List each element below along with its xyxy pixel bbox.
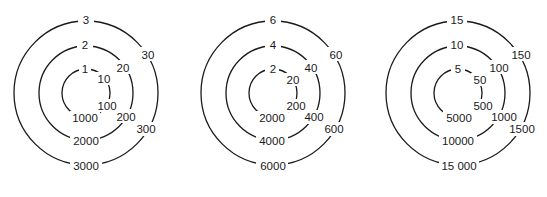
dial-1-outer-lower-right-label: 300 <box>136 123 155 135</box>
dial-2-outer-top-label: 6 <box>270 14 276 26</box>
dial-1-inner-top-label: 1 <box>82 63 88 75</box>
dial-1-middle-bottom-label: 2000 <box>73 135 99 147</box>
dial-2-middle-upper-right-label: 40 <box>305 62 318 74</box>
dial-1-outer-upper-right-label: 30 <box>142 49 155 61</box>
dial-3-middle-lower-right-label: 1000 <box>491 111 517 123</box>
dial-3-inner-top-label: 5 <box>455 63 461 75</box>
dial-2-outer-upper-right-label: 60 <box>330 49 343 61</box>
dial-2-outer-bottom-label: 6000 <box>260 160 286 172</box>
dial-1-outer-top-label: 3 <box>83 14 89 26</box>
dial-1-inner-bottom-label: 1000 <box>72 112 98 124</box>
dial-3-inner-upper-right-label: 50 <box>474 74 487 86</box>
dial-3: 15 10 5 150 100 50 500 1000 1500 5000 10… <box>386 13 538 173</box>
dial-2-inner-bottom-label: 2000 <box>259 112 285 124</box>
dial-3-middle-bottom-label: 10000 <box>442 135 474 147</box>
dial-2-middle-top-label: 4 <box>270 39 277 51</box>
dial-3-middle-upper-right-label: 100 <box>489 62 508 74</box>
dial-2-inner-top-label: 2 <box>270 63 276 75</box>
dial-2: 6 4 2 60 40 20 200 400 600 2000 4000 600… <box>201 13 347 173</box>
dial-3-middle-top-label: 10 <box>451 39 464 51</box>
dial-1-middle-top-label: 2 <box>82 39 88 51</box>
dial-1-inner-lower-right-label: 100 <box>97 100 116 112</box>
dial-3-inner-bottom-label: 5000 <box>446 112 472 124</box>
dial-2-inner-lower-right-label: 200 <box>286 100 305 112</box>
dial-1-middle-upper-right-label: 20 <box>117 62 130 74</box>
dial-1-inner-upper-right-label: 10 <box>98 73 111 85</box>
dial-3-outer-upper-right-label: 150 <box>511 49 530 61</box>
dial-2-inner-upper-right-label: 20 <box>287 74 300 86</box>
dial-3-outer-bottom-label: 15 000 <box>441 160 476 172</box>
dial-2-middle-bottom-label: 4000 <box>259 135 285 147</box>
dial-3-inner-lower-right-label: 500 <box>473 100 492 112</box>
dial-3-outer-lower-right-label: 1500 <box>509 123 535 135</box>
dial-1: 3 2 1 30 20 10 100 200 300 1000 2000 300… <box>14 13 160 173</box>
dial-1-outer-bottom-label: 3000 <box>73 160 99 172</box>
dial-2-outer-lower-right-label: 600 <box>324 123 343 135</box>
concentric-dials-diagram: 3 2 1 30 20 10 100 200 300 1000 2000 300… <box>0 0 547 197</box>
dial-1-middle-lower-right-label: 200 <box>116 111 135 123</box>
dial-2-middle-lower-right-label: 400 <box>304 111 323 123</box>
dial-3-outer-top-label: 15 <box>451 14 464 26</box>
